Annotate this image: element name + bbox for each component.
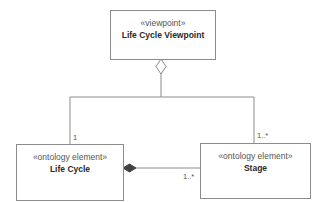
multiplicity-lifecycle: 1 — [73, 133, 77, 142]
viewpoint-box[interactable]: «viewpoint» Life Cycle Viewpoint — [110, 10, 216, 60]
stage-stereotype: «ontology element» — [201, 151, 310, 162]
composition-diamond — [123, 164, 136, 172]
stage-name: Stage — [201, 162, 310, 174]
multiplicity-stage-aggregation: 1..* — [257, 131, 268, 140]
viewpoint-stereotype: «viewpoint» — [111, 18, 215, 29]
life-cycle-stereotype: «ontology element» — [17, 152, 123, 163]
multiplicity-stage-composition: 1..* — [183, 172, 194, 181]
aggregation-diamond — [156, 59, 166, 74]
viewpoint-name: Life Cycle Viewpoint — [111, 29, 215, 41]
life-cycle-name: Life Cycle — [17, 163, 123, 175]
stage-box[interactable]: «ontology element» Stage — [200, 143, 311, 199]
life-cycle-box[interactable]: «ontology element» Life Cycle — [16, 144, 124, 201]
